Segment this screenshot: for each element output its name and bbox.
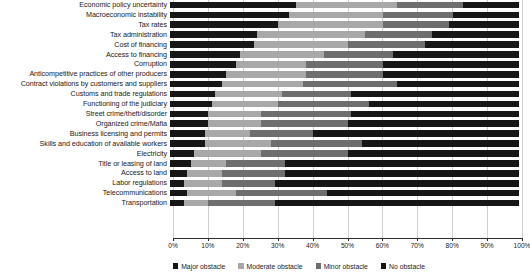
- bar-segment-none[interactable]: [285, 160, 519, 167]
- stacked-bar[interactable]: [170, 190, 519, 197]
- bar-segment-major[interactable]: [170, 61, 236, 68]
- bar-segment-major[interactable]: [170, 180, 184, 187]
- bar-segment-moderate[interactable]: [278, 21, 383, 28]
- bar-segment-minor[interactable]: [261, 120, 348, 127]
- stacked-bar[interactable]: [170, 180, 519, 187]
- bar-segment-major[interactable]: [170, 150, 194, 157]
- bar-segment-none[interactable]: [275, 180, 519, 187]
- bar-segment-moderate[interactable]: [215, 91, 281, 98]
- bar-segment-none[interactable]: [393, 51, 519, 58]
- bar-segment-minor[interactable]: [261, 111, 352, 118]
- bar-segment-minor[interactable]: [222, 180, 274, 187]
- stacked-bar[interactable]: [170, 140, 519, 147]
- bar-segment-minor[interactable]: [397, 2, 463, 9]
- bar-segment-moderate[interactable]: [205, 130, 250, 137]
- bar-segment-minor[interactable]: [278, 101, 369, 108]
- bar-segment-none[interactable]: [348, 150, 519, 157]
- stacked-bar[interactable]: [170, 111, 519, 118]
- bar-segment-major[interactable]: [170, 41, 254, 48]
- stacked-bar[interactable]: [170, 12, 519, 19]
- stacked-bar[interactable]: [170, 21, 519, 28]
- stacked-bar[interactable]: [170, 81, 519, 88]
- bar-segment-major[interactable]: [170, 140, 205, 147]
- bar-segment-major[interactable]: [170, 130, 205, 137]
- bar-segment-moderate[interactable]: [226, 71, 306, 78]
- bar-segment-moderate[interactable]: [208, 120, 260, 127]
- stacked-bar[interactable]: [170, 31, 519, 38]
- bar-segment-major[interactable]: [170, 190, 187, 197]
- stacked-bar[interactable]: [170, 170, 519, 177]
- stacked-bar[interactable]: [170, 120, 519, 127]
- bar-segment-moderate[interactable]: [222, 81, 302, 88]
- bar-segment-none[interactable]: [351, 91, 519, 98]
- bar-segment-minor[interactable]: [306, 61, 383, 68]
- bar-segment-none[interactable]: [351, 111, 519, 118]
- bar-segment-minor[interactable]: [324, 51, 394, 58]
- bar-segment-moderate[interactable]: [205, 140, 271, 147]
- bar-segment-minor[interactable]: [236, 190, 327, 197]
- bar-segment-none[interactable]: [327, 190, 519, 197]
- bar-segment-major[interactable]: [170, 160, 191, 167]
- stacked-bar[interactable]: [170, 71, 519, 78]
- bar-segment-none[interactable]: [449, 21, 519, 28]
- bar-segment-none[interactable]: [432, 31, 519, 38]
- bar-segment-minor[interactable]: [383, 12, 453, 19]
- bar-segment-none[interactable]: [425, 41, 519, 48]
- bar-segment-none[interactable]: [313, 130, 519, 137]
- bar-segment-none[interactable]: [397, 81, 519, 88]
- bar-segment-minor[interactable]: [271, 140, 362, 147]
- bar-segment-major[interactable]: [170, 31, 257, 38]
- legend-item-major[interactable]: Major obstacle: [173, 262, 225, 271]
- bar-segment-minor[interactable]: [226, 160, 285, 167]
- bar-segment-major[interactable]: [170, 200, 184, 207]
- bar-segment-moderate[interactable]: [187, 170, 222, 177]
- legend-item-moderate[interactable]: Moderate obstacle: [238, 262, 302, 271]
- bar-segment-minor[interactable]: [282, 91, 352, 98]
- bar-segment-moderate[interactable]: [187, 190, 236, 197]
- bar-segment-major[interactable]: [170, 51, 240, 58]
- bar-segment-major[interactable]: [170, 170, 187, 177]
- bar-segment-minor[interactable]: [306, 71, 383, 78]
- bar-segment-minor[interactable]: [365, 31, 431, 38]
- bar-segment-major[interactable]: [170, 21, 278, 28]
- bar-segment-minor[interactable]: [383, 21, 449, 28]
- bar-segment-none[interactable]: [362, 140, 519, 147]
- bar-segment-none[interactable]: [275, 200, 519, 207]
- stacked-bar[interactable]: [170, 150, 519, 157]
- bar-segment-major[interactable]: [170, 91, 215, 98]
- bar-segment-moderate[interactable]: [296, 2, 397, 9]
- bar-segment-minor[interactable]: [348, 41, 425, 48]
- bar-segment-none[interactable]: [383, 71, 519, 78]
- bar-segment-none[interactable]: [348, 120, 519, 127]
- bar-segment-none[interactable]: [285, 170, 519, 177]
- bar-segment-major[interactable]: [170, 81, 222, 88]
- bar-segment-major[interactable]: [170, 101, 212, 108]
- stacked-bar[interactable]: [170, 200, 519, 207]
- bar-segment-moderate[interactable]: [191, 160, 226, 167]
- bar-segment-moderate[interactable]: [212, 101, 278, 108]
- bar-segment-none[interactable]: [369, 101, 519, 108]
- stacked-bar[interactable]: [170, 51, 519, 58]
- bar-segment-major[interactable]: [170, 111, 208, 118]
- bar-segment-moderate[interactable]: [240, 51, 324, 58]
- legend-item-minor[interactable]: Minor obstacle: [316, 262, 368, 271]
- stacked-bar[interactable]: [170, 91, 519, 98]
- bar-segment-minor[interactable]: [208, 200, 274, 207]
- bar-segment-moderate[interactable]: [194, 150, 260, 157]
- stacked-bar[interactable]: [170, 130, 519, 137]
- stacked-bar[interactable]: [170, 2, 519, 9]
- bar-segment-minor[interactable]: [303, 81, 397, 88]
- bar-segment-moderate[interactable]: [289, 12, 383, 19]
- bar-segment-major[interactable]: [170, 120, 208, 127]
- bar-segment-moderate[interactable]: [254, 41, 348, 48]
- stacked-bar[interactable]: [170, 61, 519, 68]
- bar-segment-moderate[interactable]: [184, 200, 208, 207]
- bar-segment-none[interactable]: [463, 2, 519, 9]
- stacked-bar[interactable]: [170, 101, 519, 108]
- stacked-bar[interactable]: [170, 160, 519, 167]
- bar-segment-none[interactable]: [453, 12, 519, 19]
- bar-segment-minor[interactable]: [261, 150, 348, 157]
- bar-segment-major[interactable]: [170, 12, 289, 19]
- legend-item-none[interactable]: No obstacle: [381, 262, 425, 271]
- bar-segment-major[interactable]: [170, 71, 226, 78]
